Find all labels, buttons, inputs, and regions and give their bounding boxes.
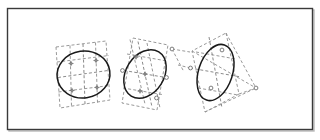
geometry-diagram <box>0 0 320 140</box>
node-marker <box>170 47 174 51</box>
node-marker <box>220 48 224 52</box>
outer-border-frame <box>8 9 315 132</box>
node-marker <box>254 86 258 90</box>
figure-container: Ellipse construction from conjugate diam… <box>0 0 320 140</box>
node-marker <box>209 86 213 90</box>
node-marker <box>189 66 193 70</box>
node-marker <box>165 76 169 80</box>
border-outline <box>8 9 313 130</box>
node-marker <box>155 96 159 100</box>
node-marker <box>121 69 125 73</box>
